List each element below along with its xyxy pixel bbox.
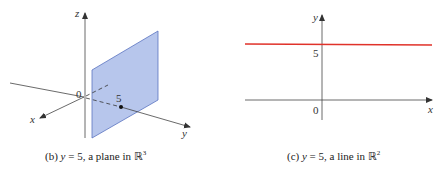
- plane-y-equals-5: [92, 31, 158, 138]
- y-axis-label: y: [181, 127, 187, 139]
- y-axis-label-2d: y: [312, 11, 318, 23]
- point-label: 5: [116, 92, 122, 104]
- x-axis-label-2d: x: [427, 103, 433, 115]
- caption-c: (c) y = 5, a line in ℝ2: [287, 149, 381, 163]
- figure-canvas: z x y 0 5 (b) y = 5, a plane in ℝ3 y x 5…: [0, 0, 446, 173]
- x-axis-front: [40, 97, 84, 118]
- red-line-y-equals-5: [245, 44, 432, 45]
- origin-label-2d: 0: [313, 104, 319, 116]
- origin-label: 0: [76, 88, 82, 100]
- z-axis-label: z: [74, 7, 80, 19]
- x-axis-label: x: [29, 113, 35, 125]
- plane-figure-3d: z x y 0 5 (b) y = 5, a plane in ℝ3: [10, 7, 190, 163]
- y-axis: [121, 107, 190, 127]
- tick-label-5: 5: [313, 47, 319, 59]
- x-axis-back: [10, 83, 84, 97]
- line-figure-2d: y x 5 0 (c) y = 5, a line in ℝ2: [245, 11, 433, 163]
- point-y-5: [119, 105, 123, 109]
- caption-b: (b) y = 5, a plane in ℝ3: [45, 149, 147, 163]
